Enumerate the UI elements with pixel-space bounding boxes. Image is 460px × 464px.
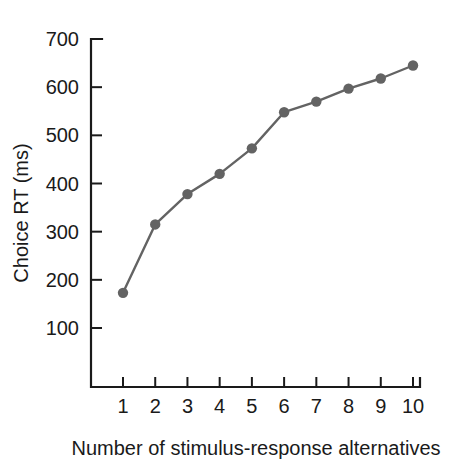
data-line-choice-rt [123,65,413,292]
x-tick-label-5: 5 [246,395,257,417]
y-axis-ticks [91,39,102,328]
data-point-10 [408,60,418,70]
x-tick-label-7: 7 [311,395,322,417]
y-tick-label-100: 100 [46,317,79,339]
y-tick-label-500: 500 [46,124,79,146]
y-tick-label-300: 300 [46,221,79,243]
x-tick-label-6: 6 [279,395,290,417]
data-point-5 [247,143,257,153]
x-axis-tick-labels: 12345678910 [117,395,424,417]
data-point-2 [150,219,160,229]
x-axis-ticks [123,377,413,387]
x-tick-label-9: 9 [375,395,386,417]
y-tick-label-600: 600 [46,76,79,98]
x-tick-label-1: 1 [117,395,128,417]
y-tick-label-700: 700 [46,28,79,50]
x-tick-label-10: 10 [402,395,424,417]
y-axis-title: Choice RT (ms) [10,143,32,282]
x-axis-title: Number of stimulus-response alternatives [71,437,440,459]
axis-frame [91,39,420,387]
y-tick-label-400: 400 [46,173,79,195]
data-point-7 [311,96,321,106]
data-point-3 [182,189,192,199]
data-point-8 [343,83,353,93]
x-tick-label-3: 3 [182,395,193,417]
y-tick-label-200: 200 [46,269,79,291]
x-tick-label-8: 8 [343,395,354,417]
data-point-6 [279,107,289,117]
data-point-9 [376,73,386,83]
data-point-4 [214,169,224,179]
data-points [118,60,418,298]
data-point-1 [118,288,128,298]
chart-figure: 100200300400500600700 12345678910 Choice… [0,0,460,464]
line-chart: 100200300400500600700 12345678910 Choice… [0,0,460,464]
x-tick-label-2: 2 [150,395,161,417]
y-axis-tick-labels: 100200300400500600700 [46,28,79,339]
axes [91,39,420,387]
x-tick-label-4: 4 [214,395,225,417]
